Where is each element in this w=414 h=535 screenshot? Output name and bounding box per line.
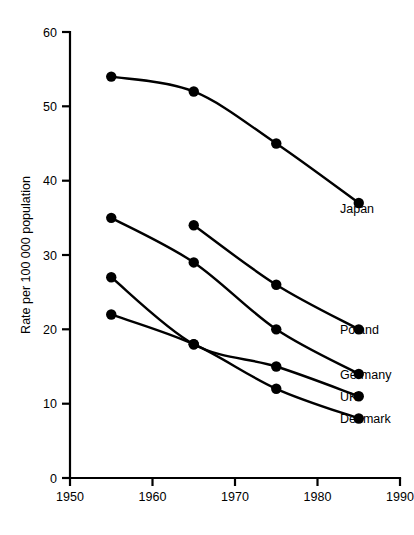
data-point [106, 71, 116, 81]
data-point [271, 138, 281, 148]
series-japan: Japan [106, 71, 374, 215]
y-tick-label-0: 0 [50, 472, 57, 486]
y-axis-tick-labels: 0 10 20 30 40 50 60 [43, 26, 57, 486]
data-point [271, 384, 281, 394]
series-germany-line [111, 218, 359, 374]
data-point [189, 339, 199, 349]
data-point [106, 309, 116, 319]
data-point [106, 213, 116, 223]
series-label-poland: Poland [340, 323, 379, 337]
data-point [271, 324, 281, 334]
x-tick-label-1960: 1960 [139, 490, 167, 504]
series-denmark-line [111, 314, 359, 418]
y-tick-label-40: 40 [43, 174, 57, 188]
x-axis-ticks [70, 478, 400, 486]
series-japan-markers [106, 71, 364, 208]
series-uk: UK [106, 272, 364, 404]
series-label-germany: Germany [340, 368, 392, 382]
series-label-japan: Japan [340, 202, 374, 216]
line-chart: 0 10 20 30 40 50 60 1950 1960 1970 1980 … [0, 0, 414, 535]
data-point [106, 272, 116, 282]
series-japan-line [111, 77, 359, 203]
series-uk-markers [106, 272, 364, 401]
x-tick-label-1950: 1950 [56, 490, 84, 504]
series-poland: Poland [189, 220, 379, 337]
data-point [271, 280, 281, 290]
y-axis-ticks [62, 32, 70, 478]
data-point [189, 86, 199, 96]
series-label-denmark: Denmark [340, 412, 391, 426]
x-axis-tick-labels: 1950 1960 1970 1980 1990 [56, 490, 414, 504]
y-tick-label-60: 60 [43, 26, 57, 40]
y-tick-label-20: 20 [43, 323, 57, 337]
x-tick-label-1980: 1980 [304, 490, 332, 504]
y-tick-label-10: 10 [43, 397, 57, 411]
y-tick-label-30: 30 [43, 249, 57, 263]
series-label-uk: UK [340, 390, 358, 404]
series-poland-line [194, 225, 359, 329]
series-germany: Germany [106, 213, 392, 382]
y-axis-title: Rate per 100 000 population [19, 176, 33, 334]
y-tick-label-50: 50 [43, 100, 57, 114]
data-point [271, 361, 281, 371]
data-point [189, 257, 199, 267]
data-point [189, 220, 199, 230]
chart-canvas: 0 10 20 30 40 50 60 1950 1960 1970 1980 … [0, 0, 414, 535]
x-tick-label-1970: 1970 [221, 490, 249, 504]
x-tick-label-1990: 1990 [386, 490, 414, 504]
